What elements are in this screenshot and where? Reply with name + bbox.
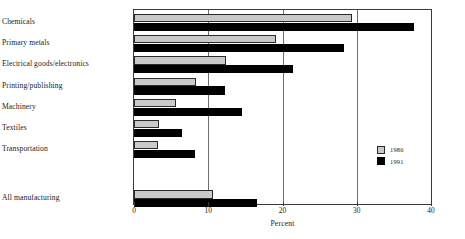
plot-area: 19861991 — [133, 9, 432, 205]
bar-1986-5 — [134, 99, 176, 107]
bar-1986-2 — [134, 35, 276, 43]
category-label: Machinery — [2, 102, 122, 111]
bar-1986-3 — [134, 56, 226, 64]
bar-1986-1 — [134, 14, 352, 22]
x-tick-label: 30 — [353, 206, 360, 215]
legend-item-1991: 1991 — [377, 156, 404, 167]
category-label: Printing/publishing — [2, 81, 122, 90]
x-tick-label: 20 — [279, 206, 286, 215]
gridline-20 — [283, 10, 284, 204]
category-axis-labels: ChemicalsPrimary metalsElectrical goods/… — [0, 0, 128, 239]
legend-label: 1986 — [390, 146, 404, 153]
bar-1991-2 — [134, 44, 344, 52]
legend-swatch-icon-1991 — [377, 157, 385, 165]
bar-1986-8 — [134, 190, 213, 198]
category-label: Primary metals — [2, 38, 122, 47]
x-axis: 010203040 — [133, 206, 432, 220]
legend-label: 1991 — [390, 158, 404, 165]
category-label: Chemicals — [2, 17, 122, 26]
legend-swatch-icon-1986 — [377, 146, 385, 154]
bar-chart: ChemicalsPrimary metalsElectrical goods/… — [0, 0, 465, 239]
category-label: All manufacturing — [2, 193, 122, 202]
gridline-30 — [357, 10, 358, 204]
bar-1991-4 — [134, 86, 225, 94]
bar-1991-1 — [134, 23, 414, 31]
x-axis-title: Percent — [133, 219, 432, 228]
bar-1991-7 — [134, 150, 195, 158]
bar-1986-6 — [134, 120, 159, 128]
category-label: Textiles — [2, 123, 122, 132]
bar-1991-5 — [134, 108, 242, 116]
category-label: Electrical goods/electronics — [2, 59, 122, 68]
bar-1991-6 — [134, 129, 182, 137]
bar-1986-4 — [134, 78, 196, 86]
bar-1991-3 — [134, 65, 293, 73]
bar-1986-7 — [134, 141, 158, 149]
x-tick-label: 10 — [205, 206, 212, 215]
x-tick-label: 40 — [427, 206, 434, 215]
category-label: Transportation — [2, 144, 122, 153]
plot-inner — [134, 10, 431, 204]
legend-item-1986: 1986 — [377, 144, 404, 155]
x-tick-label: 0 — [132, 206, 136, 215]
